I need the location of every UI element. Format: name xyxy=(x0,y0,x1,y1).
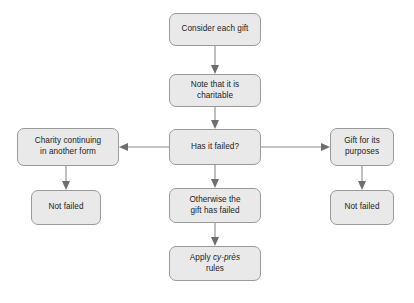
node-label: Has it failed? xyxy=(191,142,239,153)
node-note-that-it-is-charitable[interactable]: Note that it is charitable xyxy=(169,74,261,107)
edge-note-to-hasfailed xyxy=(211,107,219,129)
node-not-failed-right[interactable]: Not failed xyxy=(330,190,394,225)
node-label: Not failed xyxy=(344,202,379,213)
flowchart-diagram: Consider each gift Note that it is chari… xyxy=(0,0,414,303)
node-label: Otherwise the gift has failed xyxy=(189,195,240,217)
edge-hasfailed-to-charity xyxy=(119,143,169,151)
node-label-suffix: rules xyxy=(206,264,224,273)
node-gift-for-its-purposes[interactable]: Gift for its purposes xyxy=(330,128,394,166)
edge-charity-to-notfailed-left xyxy=(62,166,70,190)
node-otherwise-the-gift-has-failed[interactable]: Otherwise the gift has failed xyxy=(169,188,261,223)
edge-otherwise-to-cypres xyxy=(211,223,219,246)
node-not-failed-left[interactable]: Not failed xyxy=(31,190,101,225)
node-charity-continuing-in-another-form[interactable]: Charity continuing in another form xyxy=(17,128,119,166)
node-consider-each-gift[interactable]: Consider each gift xyxy=(169,13,261,46)
edge-hasfailed-to-otherwise xyxy=(211,165,219,188)
node-has-it-failed[interactable]: Has it failed? xyxy=(169,129,261,165)
node-label: Note that it is charitable xyxy=(191,80,240,102)
node-label: Consider each gift xyxy=(182,24,249,35)
edge-consider-to-note xyxy=(211,46,219,74)
edge-hasfailed-to-gift xyxy=(261,143,330,151)
node-label: Charity continuing in another form xyxy=(35,136,101,158)
node-label-italic-term: cy-près xyxy=(213,253,240,262)
edge-gift-to-notfailed-right xyxy=(358,166,366,190)
node-apply-cy-pres-rules[interactable]: Apply cy-près rules xyxy=(169,246,261,281)
node-label: Apply cy-près rules xyxy=(190,253,240,275)
node-label-prefix: Apply xyxy=(190,253,213,262)
node-label: Not failed xyxy=(48,202,83,213)
node-label: Gift for its purposes xyxy=(344,136,380,158)
